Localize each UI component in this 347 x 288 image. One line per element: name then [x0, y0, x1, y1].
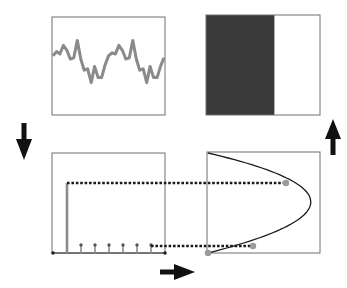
- parabolic-curve: [208, 153, 311, 253]
- baseline-left-dot: [51, 251, 55, 255]
- lower-marker: [250, 243, 256, 249]
- arrow-up-icon: [325, 119, 341, 155]
- step-field-panel: [206, 15, 320, 115]
- curve-panel: [207, 152, 320, 253]
- signal-line: [53, 40, 164, 82]
- arrow-down-icon: [16, 123, 32, 160]
- impulse-panel: [51, 153, 167, 255]
- upper-marker: [283, 180, 289, 186]
- baseline-right-dot: [163, 251, 167, 255]
- arrow-right-icon: [160, 264, 195, 280]
- origin-marker: [205, 250, 211, 256]
- diagram-canvas: [0, 0, 347, 288]
- impulse-tip: [93, 243, 96, 246]
- filled-region: [206, 15, 274, 115]
- impulse-tip: [107, 243, 110, 246]
- impulse-frame: [52, 153, 165, 253]
- impulse-tip: [135, 243, 138, 246]
- signal-frame: [52, 17, 165, 115]
- signal-panel: [52, 17, 165, 115]
- impulse-tip: [121, 243, 124, 246]
- impulse-tip: [79, 243, 82, 246]
- curve-frame: [207, 152, 320, 253]
